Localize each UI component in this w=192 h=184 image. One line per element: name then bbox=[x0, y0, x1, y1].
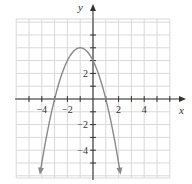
curve-right-arrow-icon bbox=[116, 167, 122, 174]
x-tick-label: −4 bbox=[36, 104, 47, 115]
y-tick-label: 2 bbox=[83, 68, 88, 79]
x-tick-label: −2 bbox=[62, 104, 73, 115]
curve-left-arrow-icon bbox=[38, 167, 44, 174]
axes bbox=[15, 4, 186, 180]
x-axis-arrow-icon bbox=[179, 96, 186, 102]
y-tick-label: −2 bbox=[77, 119, 88, 130]
y-axis-arrow-icon bbox=[90, 4, 96, 11]
y-axis-label: y bbox=[77, 1, 83, 13]
parabola-graph: −4−2242−2−4 x y bbox=[0, 0, 192, 184]
x-tick-label: 4 bbox=[142, 104, 147, 115]
x-axis-label: x bbox=[178, 104, 184, 116]
x-tick-label: 2 bbox=[116, 104, 121, 115]
y-tick-label: −4 bbox=[77, 145, 88, 156]
